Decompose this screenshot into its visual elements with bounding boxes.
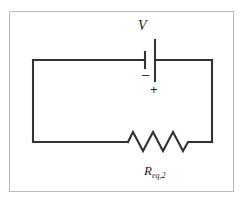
figure-canvas: V – + Req,2 xyxy=(0,0,244,204)
resistor-zigzag xyxy=(128,132,190,151)
voltage-source-label: V xyxy=(138,19,147,33)
negative-terminal-label: – xyxy=(142,68,149,81)
circuit-schematic-drawing xyxy=(0,0,244,204)
positive-terminal-label: + xyxy=(150,83,158,96)
resistor-label-subscript: eq,2 xyxy=(152,171,166,180)
resistor-label: Req,2 xyxy=(144,164,166,177)
resistor-label-symbol: R xyxy=(144,163,152,178)
